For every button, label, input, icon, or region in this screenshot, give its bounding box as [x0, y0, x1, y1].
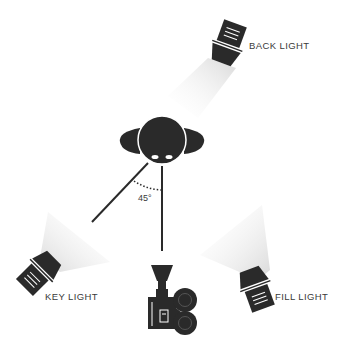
- left-ear: [120, 128, 140, 154]
- key-light-label: KEY LIGHT: [45, 291, 98, 302]
- back-light-label: BACK LIGHT: [249, 40, 310, 51]
- head-circle: [138, 116, 186, 164]
- subject-head-icon: [120, 116, 204, 164]
- left-eye: [152, 155, 159, 159]
- angle-arc: [134, 181, 161, 190]
- right-ear: [184, 128, 204, 154]
- camera-icon: [148, 265, 197, 335]
- diagram-canvas: BACK LIGHT KEY LIGHT FILL LIGHT 45°: [0, 0, 345, 355]
- right-eye: [166, 155, 173, 159]
- lighting-diagram: BACK LIGHT KEY LIGHT FILL LIGHT 45°: [0, 0, 345, 355]
- back-light-beam: [168, 58, 236, 118]
- angle-label: 45°: [138, 193, 152, 203]
- fill-light-label: FILL LIGHT: [275, 291, 328, 302]
